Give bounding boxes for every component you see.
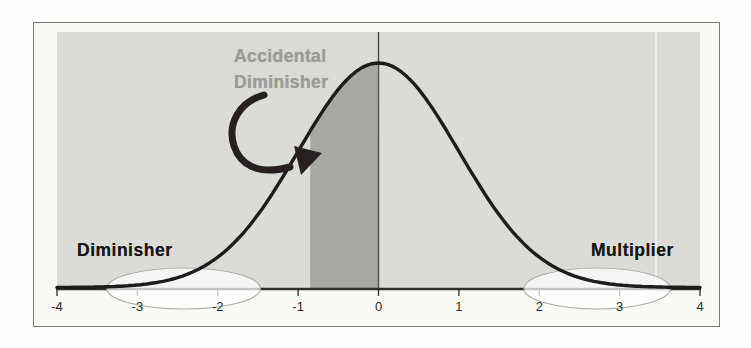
tail-ellipse bbox=[524, 268, 670, 309]
x-tick-label: 0 bbox=[375, 299, 382, 314]
x-tick-label: 4 bbox=[696, 299, 703, 314]
x-tick-label: -4 bbox=[51, 299, 63, 314]
bell-curve-chart: -4-3-2-101234 bbox=[0, 0, 751, 348]
accidental-diminisher-annotation: Accidental Diminisher bbox=[234, 43, 328, 95]
x-tick-label: -1 bbox=[292, 299, 304, 314]
x-tick-label: 2 bbox=[536, 299, 543, 314]
x-tick-label: 3 bbox=[616, 299, 623, 314]
accidental-diminisher-line1: Accidental bbox=[234, 43, 328, 69]
x-tick-label: -3 bbox=[132, 299, 144, 314]
bell-curve-figure: -4-3-2-101234 Accidental Diminisher Dimi… bbox=[0, 0, 751, 348]
multiplier-label: Multiplier bbox=[591, 240, 674, 261]
accidental-diminisher-line2: Diminisher bbox=[234, 69, 328, 95]
diminisher-label: Diminisher bbox=[77, 240, 172, 261]
x-tick-label: 1 bbox=[455, 299, 462, 314]
x-tick-label: -2 bbox=[212, 299, 224, 314]
